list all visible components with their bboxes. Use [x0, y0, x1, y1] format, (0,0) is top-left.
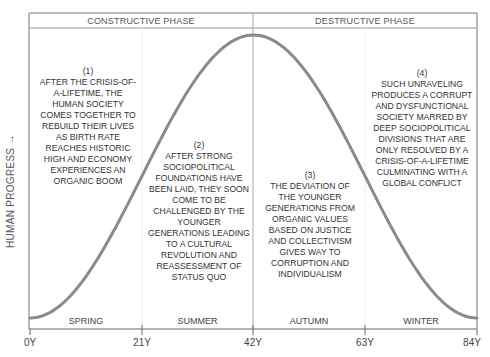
note-line: REACHES HISTORIC — [33, 143, 143, 154]
note-line: THE YOUNGER — [255, 192, 365, 203]
tick-label-21y: 21Y — [122, 337, 162, 348]
note-line: HIGH AND ECONOMY — [33, 154, 143, 165]
note-line: AFTER STRONG — [143, 151, 255, 162]
note-line: ORGANIC BOOM — [33, 176, 143, 187]
tick-label-42y: 42Y — [233, 337, 273, 348]
note-line: YOUNGER — [143, 217, 255, 228]
note-winter: (4)SUCH UNRAVELINGPRODUCES A CORRUPTAND … — [366, 68, 478, 189]
season-spring: SPRING — [30, 316, 142, 326]
phase-label-constructive: CONSTRUCTIVE PHASE — [29, 14, 253, 28]
note-number: (3) — [255, 170, 365, 181]
note-line: AND COLLECTIVISM — [255, 236, 365, 247]
note-line: SOCIOPOLITICAL — [143, 162, 255, 173]
note-line: EXPERIENCES AN — [33, 165, 143, 176]
note-line: FOUNDATIONS HAVE — [143, 173, 255, 184]
note-autumn: (3)THE DEVIATION OFTHE YOUNGERGENERATION… — [255, 170, 365, 280]
note-line: CULMINATING WITH A — [366, 167, 478, 178]
note-line: AND DYSFUNCTIONAL — [366, 101, 478, 112]
note-line: AFTER THE CRISIS-OF- — [33, 77, 143, 88]
note-summer: (2)AFTER STRONGSOCIOPOLITICALFOUNDATIONS… — [143, 140, 255, 283]
note-number: (4) — [366, 68, 478, 79]
note-line: COME TO BE — [143, 195, 255, 206]
note-line: THE DEVIATION OF — [255, 181, 365, 192]
note-line: DEEP SOCIOPOLITICAL — [366, 123, 478, 134]
season-winter: WINTER — [365, 316, 477, 326]
note-line: GENERATIONS LEADING — [143, 228, 255, 239]
note-spring: (1)AFTER THE CRISIS-OF-A-LIFETIME, THEHU… — [33, 66, 143, 187]
note-line: GENERATIONS FROM — [255, 203, 365, 214]
note-line: CHALLENGED BY THE — [143, 206, 255, 217]
season-summer: SUMMER — [142, 316, 253, 326]
note-line: SUCH UNRAVELING — [366, 79, 478, 90]
note-line: AS BIRTH RATE — [33, 132, 143, 143]
tick-label-84y: 84Y — [452, 337, 490, 348]
note-line: PRODUCES A CORRUPT — [366, 90, 478, 101]
tick-label-63y: 63Y — [345, 337, 385, 348]
note-line: DIVISIONS THAT ARE — [366, 134, 478, 145]
note-line: STATUS QUO — [143, 272, 255, 283]
phase-label-destructive: DESTRUCTIVE PHASE — [253, 14, 477, 28]
y-axis-label: HUMAN PROGRESS → — [5, 134, 16, 248]
note-line: CORRUPTION AND — [255, 258, 365, 269]
tick-label-0y: 0Y — [10, 337, 50, 348]
note-line: REBUILD THEIR LIVES — [33, 121, 143, 132]
note-line: GIVES WAY TO — [255, 247, 365, 258]
note-line: INDIVIDUALISM — [255, 269, 365, 280]
note-line: BEEN LAID, THEY SOON — [143, 184, 255, 195]
note-line: A-LIFETIME, THE — [33, 88, 143, 99]
note-line: SOCIETY MARRED BY — [366, 112, 478, 123]
note-line: ORGANIC VALUES — [255, 214, 365, 225]
note-line: TO A CULTURAL — [143, 239, 255, 250]
note-line: ONLY RESOLVED BY A — [366, 145, 478, 156]
note-number: (1) — [33, 66, 143, 77]
note-line: REASSESSMENT OF — [143, 261, 255, 272]
note-line: REVOLUTION AND — [143, 250, 255, 261]
note-line: GLOBAL CONFLICT — [366, 178, 478, 189]
season-autumn: AUTUMN — [253, 316, 365, 326]
note-line: BASED ON JUSTICE — [255, 225, 365, 236]
note-line: HUMAN SOCIETY — [33, 99, 143, 110]
note-line: COMES TOGETHER TO — [33, 110, 143, 121]
note-line: CRISIS-OF-A-LIFETIME — [366, 156, 478, 167]
note-number: (2) — [143, 140, 255, 151]
